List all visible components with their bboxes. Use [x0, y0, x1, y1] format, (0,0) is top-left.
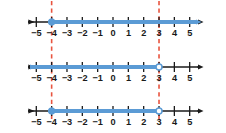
number-line-2-tick-label-2: −3: [62, 73, 72, 83]
number-line-3-tick-label-3: −2: [77, 117, 87, 127]
number-line-3-tick-label-4: −1: [93, 117, 103, 127]
number-line-2-tick-label-6: 1: [126, 73, 131, 83]
number-line-1-tick-label-8: 3: [157, 28, 162, 38]
number-line-1-tick-label-4: −1: [93, 28, 103, 38]
number-line-figure: −5−4−3−2−1012345−5−4−3−2−1012345−5−4−3−2…: [0, 0, 226, 133]
number-line-1-tick-label-5: 0: [111, 28, 116, 38]
number-line-2-tick-label-1: −4: [47, 73, 58, 83]
number-line-2-tick-label-3: −2: [77, 73, 87, 83]
number-line-3-tick-label-10: 5: [187, 117, 192, 127]
number-line-2-tick-label-4: −1: [93, 73, 103, 83]
number-line-1-tick-label-7: 2: [141, 28, 146, 38]
number-line-2-tick-label-5: 0: [111, 73, 116, 83]
number-line-2-tick-label-10: 5: [187, 73, 192, 83]
number-line-3-tick-label-2: −3: [62, 117, 72, 127]
number-line-1-tick-label-3: −2: [77, 28, 87, 38]
number-line-2-tick-label-9: 4: [172, 73, 178, 83]
number-line-3: −5−4−3−2−1012345: [28, 106, 198, 127]
number-line-1-tick-label-1: −4: [47, 28, 58, 38]
number-line-1-tick-label-9: 4: [172, 28, 178, 38]
number-line-3-open-endpoint-3: [156, 108, 162, 114]
number-line-3-tick-label-9: 4: [172, 117, 178, 127]
number-line-1-tick-label-2: −3: [62, 28, 72, 38]
number-line-1-tick-label-6: 1: [126, 28, 131, 38]
number-line-3-tick-label-1: −4: [47, 117, 58, 127]
number-line-3-closed-endpoint--4: [48, 108, 55, 115]
number-line-3-tick-label-7: 2: [141, 117, 146, 127]
number-line-3-tick-label-8: 3: [157, 117, 162, 127]
guide-line-layer: [52, 1, 159, 119]
number-line-1-closed-endpoint--4: [48, 19, 55, 26]
number-line-3-tick-label-0: −5: [31, 117, 41, 127]
number-line-svg-canvas: −5−4−3−2−1012345−5−4−3−2−1012345−5−4−3−2…: [0, 0, 226, 133]
number-line-3-tick-label-6: 1: [126, 117, 131, 127]
number-line-3-tick-label-5: 0: [111, 117, 116, 127]
number-line-2-open-endpoint-3: [156, 64, 162, 70]
number-line-1-tick-label-0: −5: [31, 28, 41, 38]
number-line-2: −5−4−3−2−1012345: [28, 62, 198, 83]
number-line-2-tick-label-0: −5: [31, 73, 41, 83]
number-line-1: −5−4−3−2−1012345: [28, 17, 198, 38]
number-line-1-tick-label-10: 5: [187, 28, 192, 38]
number-line-2-tick-label-7: 2: [141, 73, 146, 83]
number-line-2-tick-label-8: 3: [157, 73, 162, 83]
